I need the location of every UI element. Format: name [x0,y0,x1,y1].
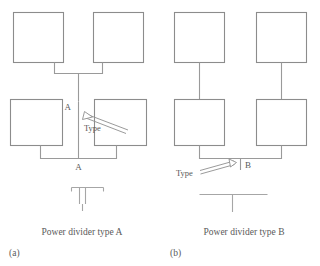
panel-a-lower-node-label: A [75,162,82,172]
figure-container: A A Type Power divider type A (a) [0,0,320,266]
panel-a-group: A A Type Power divider type A (a) [9,13,147,260]
panel-b-symbol [200,195,268,213]
panel-a-callout-label: Type [84,123,101,133]
panel-b-subfigure-label: (b) [170,248,181,259]
panel-a-top-right-element [94,13,144,63]
panel-a-top-left-element [14,13,64,63]
panel-a-bottom-left-element [11,100,63,146]
panel-b-bottom-left-element [175,100,225,146]
panel-a-bottom-right-element [95,100,147,146]
panel-b-lower-junction-bar [200,146,282,159]
panel-b-top-right-element [257,13,307,63]
panel-b-callout-label: Type [176,168,193,178]
panel-a-upper-node-label: A [65,102,72,112]
panel-b-group: B Type Power divider type B (b) [170,13,307,260]
panel-a-upper-junction-bar [55,63,103,74]
panel-b-caption: Power divider type B [203,227,284,237]
panel-b-callout-arrow [200,159,237,174]
panel-b-bottom-right-element [257,100,307,146]
power-divider-figure: A A Type Power divider type A (a) [0,0,320,266]
panel-b-top-left-element [175,13,225,63]
panel-b-node-label: B [245,160,251,170]
panel-a-symbol [72,188,104,212]
panel-a-subfigure-label: (a) [9,248,20,259]
panel-a-caption: Power divider type A [41,227,122,237]
